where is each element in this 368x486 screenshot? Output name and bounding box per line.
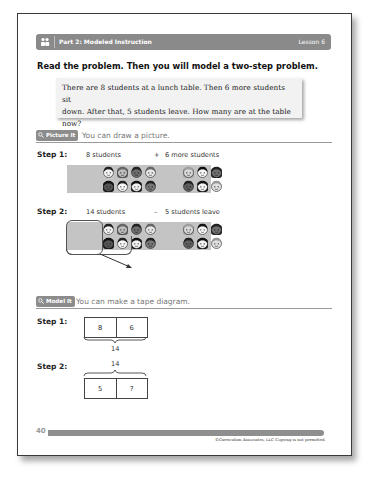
lesson-label: Lesson 6 <box>299 38 325 45</box>
picture-it-description: You can draw a picture. <box>82 130 170 141</box>
brace-up-icon <box>83 369 147 377</box>
student-face-icon <box>144 164 157 178</box>
model-it-badge: Model It <box>36 296 75 307</box>
students-icon <box>40 37 50 47</box>
step-2-left-caption: 14 students <box>86 208 125 216</box>
tape-diagram-step-1: 8 6 <box>84 317 148 338</box>
student-face-icon <box>182 235 195 249</box>
tape-cell: 6 <box>116 318 148 337</box>
tape-total-step-2: 14 <box>111 360 119 368</box>
picture-it-label: Picture It <box>46 132 75 138</box>
student-face-icon <box>102 178 115 192</box>
picture-it-section-header: Picture It You can draw a picture. <box>36 130 332 143</box>
student-face-icon <box>144 235 157 249</box>
arrow-icon <box>98 252 138 272</box>
step-1-right-caption: 6 more students <box>165 151 219 159</box>
student-face-icon <box>116 164 129 178</box>
tape-cell: 5 <box>85 379 116 398</box>
step-2-operator: – <box>154 208 157 216</box>
student-face-icon <box>144 178 157 192</box>
student-face-icon <box>196 221 209 235</box>
student-face-icon <box>130 164 143 178</box>
model-it-section-header: Model It You can make a tape diagram. <box>36 296 332 309</box>
header-divider <box>54 36 55 48</box>
student-face-icon <box>210 164 223 178</box>
step-2-right-caption: 5 students leave <box>165 208 220 216</box>
problem-line-2: down. After that, 5 students leave. How … <box>62 106 296 130</box>
model-it-description: You can make a tape diagram. <box>76 296 190 307</box>
tape-cell: ? <box>116 379 148 398</box>
footer-bar <box>48 430 324 436</box>
problem-line-1: There are 8 students at a lunch table. T… <box>62 82 296 106</box>
picture-step-2-label: Step 2: <box>37 207 67 216</box>
picture-step-1-label: Step 1: <box>37 150 67 159</box>
student-face-icon <box>182 221 195 235</box>
copyright-notice: ©Curriculum Associates, LLC Copying is n… <box>215 437 326 442</box>
student-face-icon <box>210 178 223 192</box>
student-face-icon <box>196 164 209 178</box>
tape-cell: 8 <box>85 318 116 337</box>
page-number: 40 <box>36 427 46 435</box>
step-1-left-caption: 8 students <box>86 151 121 159</box>
worksheet-page: Part 2: Modeled Instruction Lesson 6 Rea… <box>17 13 352 456</box>
section-header-bar: Part 2: Modeled Instruction Lesson 6 <box>36 34 331 50</box>
magnifier-icon <box>38 132 44 138</box>
student-face-icon <box>102 164 115 178</box>
student-face-icon <box>116 178 129 192</box>
step-1-operator: + <box>154 151 160 159</box>
student-face-icon <box>116 221 129 235</box>
picture-it-badge: Picture It <box>36 130 78 141</box>
student-face-icon <box>210 235 223 249</box>
student-face-icon <box>130 221 143 235</box>
student-face-icon <box>130 178 143 192</box>
student-face-icon <box>102 221 115 235</box>
student-face-icon <box>196 235 209 249</box>
student-face-icon <box>210 221 223 235</box>
brace-down-icon <box>83 336 147 344</box>
student-face-icon <box>196 178 209 192</box>
model-step-1-label: Step 1: <box>37 317 67 326</box>
student-face-icon <box>182 178 195 192</box>
model-it-label: Model It <box>46 298 72 304</box>
student-face-icon <box>144 221 157 235</box>
part-title: Part 2: Modeled Instruction <box>59 38 152 45</box>
model-step-2-label: Step 2: <box>37 362 67 371</box>
student-face-icon <box>182 164 195 178</box>
magnifier-icon <box>38 298 44 304</box>
tape-total-step-1: 14 <box>111 345 119 353</box>
instructions-heading: Read the problem. Then you will model a … <box>37 61 318 71</box>
problem-box: There are 8 students at a lunch table. T… <box>56 78 302 118</box>
tape-diagram-step-2: 5 ? <box>84 378 148 399</box>
